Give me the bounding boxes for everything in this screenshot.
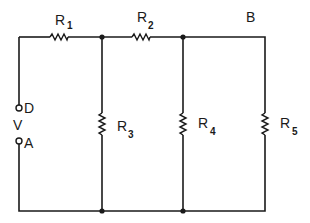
wires <box>19 37 265 211</box>
r3-label: R <box>117 118 127 134</box>
junction-node-icon <box>99 208 104 213</box>
resistor-r2-icon <box>132 34 150 40</box>
junction-node-icon <box>180 208 185 213</box>
r2-subscript: 2 <box>148 20 154 31</box>
junction-node-icon <box>180 34 185 39</box>
circuit-diagram: D V A B R 1 R 2 R 3 R 4 R 5 <box>0 0 310 223</box>
terminal-a-label: A <box>24 135 34 151</box>
r1-subscript: 1 <box>67 20 73 31</box>
node-b-label: B <box>246 9 255 25</box>
r5-label: R <box>280 115 290 131</box>
voltage-label: V <box>13 117 23 133</box>
terminal-d-icon <box>16 105 22 111</box>
r2-label: R <box>137 9 147 25</box>
terminal-a-icon <box>16 138 22 144</box>
resistor-r5-icon <box>262 113 268 135</box>
resistor-r4-icon <box>180 113 186 135</box>
r1-label: R <box>55 12 65 28</box>
wire-bottom <box>19 135 265 211</box>
r4-label: R <box>198 115 208 131</box>
r5-subscript: 5 <box>292 126 298 137</box>
terminal-d-label: D <box>24 100 34 116</box>
r4-subscript: 4 <box>210 126 216 137</box>
resistor-r3-icon <box>99 113 105 135</box>
junction-node-icon <box>99 34 104 39</box>
r3-subscript: 3 <box>128 129 134 140</box>
resistor-r1-icon <box>50 34 68 40</box>
wire-top-right <box>150 37 265 113</box>
